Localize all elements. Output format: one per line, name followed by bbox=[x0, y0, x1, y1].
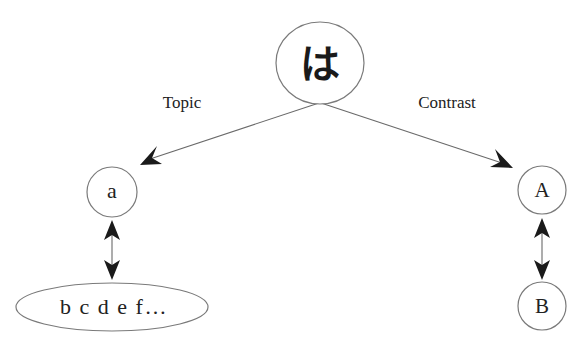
node-a-label: a bbox=[107, 178, 117, 203]
arrowhead-to-A bbox=[490, 149, 513, 168]
topic-label: Topic bbox=[163, 93, 202, 112]
contrast-label: Contrast bbox=[418, 93, 476, 112]
topic-contrast-diagram: は Topic Contrast a b c d e f… A B bbox=[0, 0, 588, 349]
arrowhead-to-a bbox=[140, 146, 162, 165]
root-node-label: は bbox=[300, 41, 340, 87]
set-label: b c d e f… bbox=[60, 294, 168, 319]
node-A-label: A bbox=[534, 178, 550, 202]
node-B-label: B bbox=[535, 294, 549, 318]
